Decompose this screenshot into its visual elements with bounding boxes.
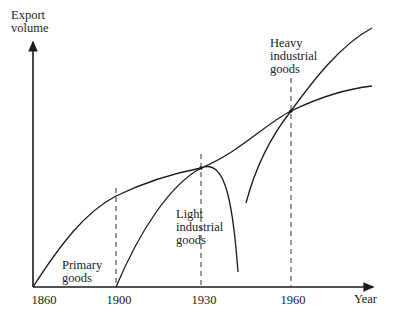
- x-axis-label: Year: [354, 293, 377, 306]
- curve-primary-goods: [33, 86, 372, 287]
- intersection-1930: [199, 166, 203, 170]
- label-heavy-line1: Heavy: [270, 36, 303, 50]
- tick-1960: 1960: [281, 293, 306, 308]
- label-light-line1: Light: [176, 207, 203, 221]
- intersection-1960: [289, 109, 293, 113]
- label-primary-line2: goods: [62, 271, 92, 285]
- diagram-canvas: [0, 0, 397, 318]
- label-primary-line1: Primary: [62, 258, 102, 272]
- y-axis-label-line2: volume: [11, 21, 49, 35]
- y-axis-label-line1: Export: [11, 8, 45, 22]
- label-light-line2: industrial: [176, 220, 223, 234]
- label-heavy-line3: goods: [270, 62, 300, 76]
- tick-1900: 1900: [107, 293, 132, 308]
- label-heavy-industrial-goods: Heavyindustrialgoods: [270, 37, 317, 76]
- label-primary-goods: Primarygoods: [62, 259, 102, 285]
- label-light-line3: goods: [176, 233, 206, 247]
- label-light-industrial-goods: Lightindustrialgoods: [176, 208, 223, 247]
- tick-1860: 1860: [32, 293, 57, 308]
- label-heavy-line2: industrial: [270, 49, 317, 63]
- tick-1930: 1930: [192, 293, 217, 308]
- y-axis-label: Exportvolume: [11, 9, 49, 35]
